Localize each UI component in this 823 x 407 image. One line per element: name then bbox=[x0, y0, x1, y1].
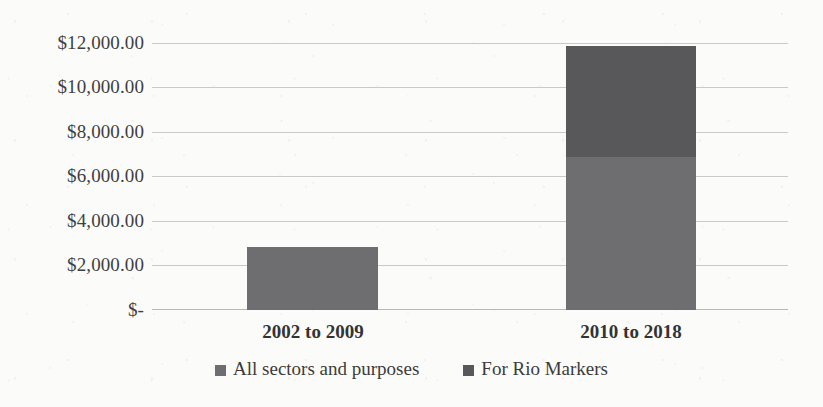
legend-label: All sectors and purposes bbox=[233, 358, 419, 380]
square-marker-icon bbox=[463, 365, 474, 376]
bar-segment-all-sectors-and-purposes[interactable] bbox=[247, 247, 378, 310]
y-tick-label: $- bbox=[0, 300, 144, 319]
bar-segment-all-sectors-and-purposes[interactable] bbox=[566, 157, 696, 310]
y-tick-label: $2,000.00 bbox=[0, 255, 144, 274]
square-marker-icon bbox=[215, 365, 226, 376]
y-axis: $12,000.00 $10,000.00 $8,000.00 $6,000.0… bbox=[0, 0, 144, 407]
y-tick-label: $6,000.00 bbox=[0, 166, 144, 185]
legend-item-all-sectors-and-purposes[interactable]: All sectors and purposes bbox=[215, 358, 419, 380]
x-axis: 2002 to 2009 2010 to 2018 bbox=[152, 320, 788, 346]
y-tick-label: $12,000.00 bbox=[0, 33, 144, 52]
y-tick-label: $10,000.00 bbox=[0, 77, 144, 96]
plot-area bbox=[152, 43, 788, 310]
bar-2002-to-2009[interactable] bbox=[247, 247, 378, 310]
gridline bbox=[152, 43, 788, 44]
y-tick-label: $8,000.00 bbox=[0, 122, 144, 141]
legend-label: For Rio Markers bbox=[481, 358, 608, 380]
x-tick-label-2010-to-2018: 2010 to 2018 bbox=[525, 320, 737, 344]
bar-segment-for-rio-markers[interactable] bbox=[566, 46, 696, 157]
y-tick-label: $4,000.00 bbox=[0, 211, 144, 230]
bar-2010-to-2018[interactable] bbox=[566, 46, 696, 310]
stacked-bar-chart: $12,000.00 $10,000.00 $8,000.00 $6,000.0… bbox=[0, 0, 823, 407]
chart-legend: All sectors and purposes For Rio Markers bbox=[0, 358, 823, 380]
legend-item-for-rio-markers[interactable]: For Rio Markers bbox=[463, 358, 608, 380]
x-tick-label-2002-to-2009: 2002 to 2009 bbox=[207, 320, 419, 344]
